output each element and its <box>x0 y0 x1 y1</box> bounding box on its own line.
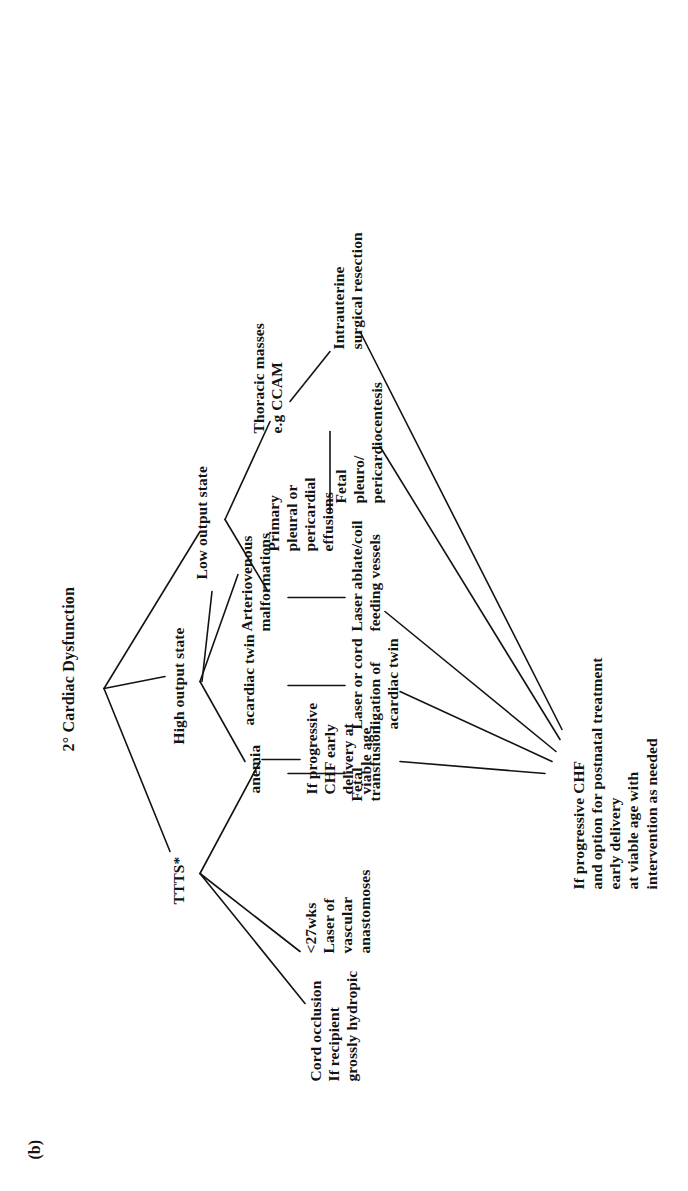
node-ttts: TTTS* <box>170 856 188 904</box>
page-title: 2° Cardiac Dysfunction <box>60 586 78 751</box>
node-intrauterine-surgical-resection: Intrauterine surgical resection <box>330 232 366 349</box>
node-laser-cord-ligation: Laser or cord ligation of acardiac twin <box>348 638 402 729</box>
node-laser-vascular-anastomoses: <27wks Laser of vascular anastomoses <box>302 869 375 953</box>
figure-canvas: (b) 2° Cardiac Dysfunction TTTS* High ou… <box>0 0 688 1191</box>
panel-label: (b) <box>26 1139 44 1159</box>
node-outcome-progressive-chf: If progressive CHF and option for postna… <box>570 657 661 889</box>
node-fetal-pleuro-pericardiocentesis: Fetal pleuro/ pericardiocentesis <box>332 382 386 503</box>
node-cord-occlusion: Cord occlusion If recipient grossly hydr… <box>307 970 361 1081</box>
node-thoracic-masses: Thoracic masses e.g CCAM <box>250 323 286 433</box>
node-low-output-state: Low output state <box>193 465 211 579</box>
node-fetal-transfusion: Fetal transfusion <box>348 725 384 801</box>
node-laser-ablate-coil: Laser ablate/coil feeding vessels <box>348 520 384 631</box>
node-high-output-state: High output state <box>170 627 188 744</box>
node-primary-effusions: Primary pleural or pericardial effusions <box>265 477 338 551</box>
node-acardiac-twin: acardiac twin <box>240 634 258 725</box>
node-anemia: anemia <box>246 744 264 793</box>
